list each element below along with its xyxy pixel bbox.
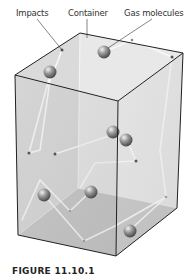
gas-molecule xyxy=(38,189,51,202)
container-box-diagram xyxy=(0,0,193,274)
gas-molecule xyxy=(44,66,57,79)
impacts-leader xyxy=(37,19,62,50)
gas-molecule xyxy=(120,134,133,147)
gas-molecule xyxy=(85,186,98,199)
front-face xyxy=(15,75,118,256)
gas-molecule xyxy=(124,225,137,238)
figure-caption: FIGURE 11.10.1 xyxy=(12,266,95,274)
